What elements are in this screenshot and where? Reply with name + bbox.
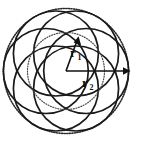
inner-radius-subscript: 1 — [78, 53, 82, 62]
inner-radius-label: r — [70, 45, 76, 60]
rosette-figure: r 1 r 2 — [0, 0, 141, 143]
rosette-diagram-svg: r 1 r 2 — [0, 0, 141, 143]
inner-radius-label-group: r 1 — [70, 45, 82, 62]
rosette-arc — [34, 11, 119, 96]
outer-radius-label: r — [82, 75, 88, 90]
rosette-arc — [34, 46, 119, 131]
outer-radius-subscript: 2 — [90, 83, 94, 92]
outer-radius-arrow — [66, 67, 131, 75]
